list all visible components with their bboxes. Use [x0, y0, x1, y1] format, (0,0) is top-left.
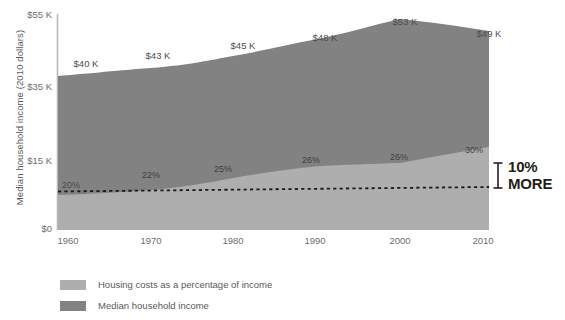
- legend: Housing costs as a percentage of income …: [60, 276, 272, 318]
- percent-label-2010: 30%: [465, 145, 483, 155]
- legend-item-housing-costs: Housing costs as a percentage of income: [60, 276, 272, 293]
- callout-line-1: 10%: [508, 158, 552, 175]
- percent-label-2000: 26%: [390, 152, 408, 162]
- value-label-1980: $45 K: [231, 40, 256, 51]
- callout-10-percent-more: 10% MORE: [508, 158, 552, 192]
- x-tick-1990: 1990: [304, 235, 325, 246]
- value-label-2010: $49 K: [477, 28, 502, 39]
- percent-label-1980: 25%: [214, 164, 232, 174]
- x-tick-2010: 2010: [472, 235, 493, 246]
- legend-item-median-income: Median household income: [60, 297, 272, 314]
- percent-label-1970: 22%: [142, 170, 160, 180]
- x-tick-1970: 1970: [140, 235, 161, 246]
- value-label-1970: $43 K: [146, 50, 171, 61]
- percent-label-1960: 20%: [62, 180, 80, 190]
- plot-area: [0, 0, 565, 320]
- value-label-2000: $53 K: [393, 16, 418, 27]
- legend-swatch-housing-costs: [60, 280, 86, 290]
- legend-label-housing-costs: Housing costs as a percentage of income: [98, 279, 272, 290]
- callout-line-2: MORE: [508, 175, 552, 192]
- percent-label-1990: 26%: [302, 155, 320, 165]
- x-tick-2000: 2000: [389, 235, 410, 246]
- value-label-1960: $40 K: [74, 58, 99, 69]
- legend-swatch-median-income: [60, 301, 86, 311]
- chart-container: Median household income (2010 dollars) $…: [0, 0, 565, 320]
- bracket-icon: [494, 163, 503, 188]
- legend-label-median-income: Median household income: [98, 300, 209, 311]
- value-label-1990: $48 K: [313, 32, 338, 43]
- x-tick-1980: 1980: [222, 235, 243, 246]
- x-tick-1960: 1960: [57, 235, 78, 246]
